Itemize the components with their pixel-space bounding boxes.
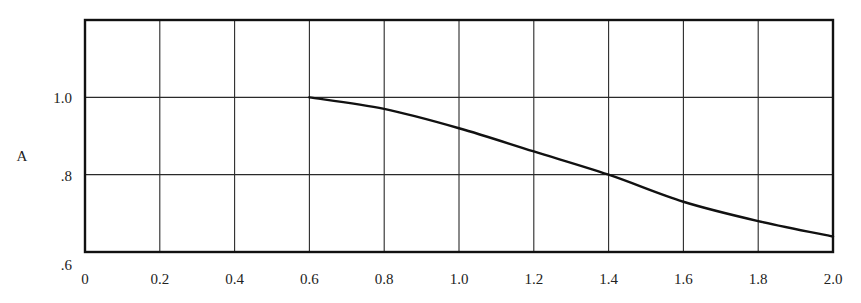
x-tick-label: 1.8 [749, 271, 768, 287]
x-tick-label: 0.6 [300, 271, 319, 287]
chart: 00.20.40.60.81.01.21.41.61.82.0 .6.81.0 … [0, 0, 861, 303]
chart-canvas: 00.20.40.60.81.01.21.41.61.82.0 .6.81.0 … [0, 0, 861, 303]
x-tick-label: 0.2 [150, 271, 169, 287]
y-tick-label: 1.0 [53, 90, 72, 106]
series-line-a [309, 97, 833, 236]
x-tick-label: 1.4 [599, 271, 618, 287]
x-tick-label: 1.6 [674, 271, 693, 287]
x-tick-label: 1.0 [450, 271, 469, 287]
data-series [309, 97, 833, 236]
y-axis-tick-labels: .6.81.0 [53, 90, 72, 273]
x-tick-label: 0 [81, 271, 89, 287]
y-axis-label: A [17, 148, 28, 164]
y-tick-label: .6 [61, 257, 73, 273]
x-tick-label: 0.4 [225, 271, 244, 287]
x-tick-label: 0.8 [375, 271, 394, 287]
y-tick-label: .8 [61, 168, 72, 184]
x-tick-label: 2.0 [824, 271, 843, 287]
grid-lines [85, 20, 833, 252]
x-tick-label: 1.2 [524, 271, 543, 287]
x-axis-tick-labels: 00.20.40.60.81.01.21.41.61.82.0 [81, 271, 842, 287]
